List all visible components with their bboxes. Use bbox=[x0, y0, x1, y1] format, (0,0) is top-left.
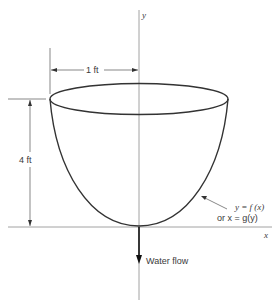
curve-label-line2: or x = g(y) bbox=[217, 213, 258, 223]
height-arrow-down-icon bbox=[28, 220, 32, 226]
curve-leader-arrow-icon bbox=[201, 196, 207, 200]
height-label: 4 ft bbox=[19, 155, 32, 165]
y-axis-label: y bbox=[141, 10, 146, 20]
radius-label: 1 ft bbox=[86, 65, 99, 75]
water-flow-arrow-icon bbox=[136, 255, 142, 264]
water-flow-label: Water flow bbox=[146, 256, 189, 266]
radius-arrow-right-icon bbox=[132, 68, 138, 72]
curve-label-line1: y = f (x) bbox=[234, 202, 264, 212]
height-arrow-up-icon bbox=[28, 100, 32, 106]
x-axis-label: x bbox=[263, 230, 268, 240]
curve-leader-line bbox=[203, 197, 227, 209]
tank-diagram: y x 1 ft 4 ft y = f (x) or x = g(y) Wate… bbox=[0, 0, 278, 301]
radius-arrow-left-icon bbox=[51, 68, 57, 72]
